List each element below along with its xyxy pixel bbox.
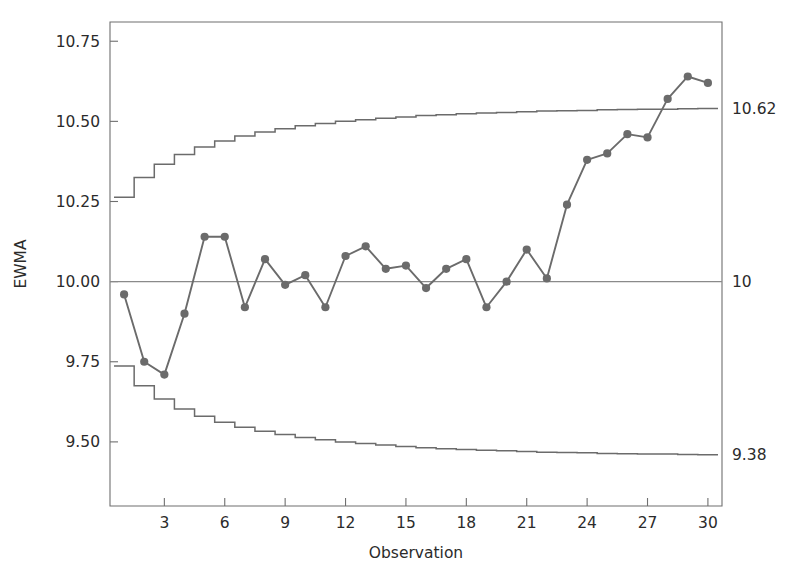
series-line-ewma [124,76,708,374]
x-tick-label: 27 [638,514,658,532]
center-value: 10 [732,273,752,291]
data-point [502,278,510,286]
y-tick-label: 10.25 [56,193,100,211]
y-tick-label: 9.50 [65,433,100,451]
data-point [241,303,249,311]
ewma-control-chart: 9.509.7510.0010.2510.5010.75369121518212… [0,0,785,568]
data-point [402,262,410,270]
data-point [160,370,168,378]
data-point [523,245,531,253]
control-limit-lcl [114,366,718,455]
data-point [140,358,148,366]
data-point [603,149,611,157]
data-point [341,252,349,260]
data-point [362,242,370,250]
x-tick-label: 18 [456,514,476,532]
data-point [643,133,651,141]
x-tick-label: 24 [577,514,597,532]
data-point [221,233,229,241]
data-point [482,303,490,311]
x-axis-title: Observation [369,544,463,562]
data-point [543,274,551,282]
chart-canvas: 9.509.7510.0010.2510.5010.75369121518212… [0,0,785,568]
x-tick-label: 12 [336,514,356,532]
x-tick-label: 6 [220,514,230,532]
x-tick-label: 30 [698,514,718,532]
plot-frame [110,22,722,506]
data-point [120,290,128,298]
data-point [684,72,692,80]
x-tick-label: 9 [280,514,290,532]
data-point [261,255,269,263]
x-tick-label: 21 [517,514,537,532]
data-point [382,265,390,273]
data-point [583,156,591,164]
data-point [664,95,672,103]
lcl-value: 9.38 [732,446,767,464]
data-point [563,201,571,209]
data-point [422,284,430,292]
y-tick-label: 10.75 [56,33,100,51]
data-point [301,271,309,279]
data-point [281,281,289,289]
data-point [180,310,188,318]
x-tick-label: 3 [159,514,169,532]
control-limit-ucl [114,109,718,198]
data-point [201,233,209,241]
x-tick-label: 15 [396,514,416,532]
data-point [442,265,450,273]
data-point [462,255,470,263]
data-point [321,303,329,311]
data-point [623,130,631,138]
data-point [704,79,712,87]
y-tick-label: 10.50 [56,113,100,131]
y-tick-label: 9.75 [65,353,100,371]
ucl-value: 10.62 [732,100,776,118]
y-tick-label: 10.00 [56,273,100,291]
y-axis-title: EWMA [12,239,30,288]
